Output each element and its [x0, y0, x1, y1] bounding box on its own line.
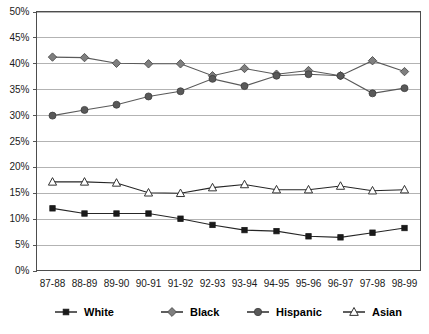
- legend-marker-hispanic: [254, 308, 261, 315]
- data-point-hispanic-98-99: [401, 85, 408, 92]
- data-point-asian-98-99: [400, 185, 408, 193]
- data-point-hispanic-89-90: [113, 101, 120, 108]
- legend-marker-black: [168, 308, 177, 317]
- data-point-black-93-94: [240, 64, 248, 72]
- x-axis-labels-group: 87-8888-8989-9090-9191-9292-9393-9494-95…: [40, 278, 418, 289]
- series-line-asian: [53, 182, 405, 193]
- x-axis-tick-label: 93-94: [232, 278, 258, 289]
- legend-label-black: Black: [190, 306, 220, 318]
- data-point-white-97-98: [370, 230, 375, 235]
- data-point-asian-93-94: [240, 180, 248, 188]
- y-axis-tick-label: 10%: [9, 213, 29, 224]
- data-point-hispanic-92-93: [209, 75, 216, 82]
- data-point-hispanic-95-96: [305, 71, 312, 78]
- x-axis-tick-label: 95-96: [296, 278, 322, 289]
- data-point-black-88-89: [80, 53, 88, 61]
- y-axis-tick-label: 20%: [9, 161, 29, 172]
- x-axis-tick-label: 91-92: [168, 278, 194, 289]
- legend-item-asian[interactable]: Asian: [343, 306, 402, 318]
- data-point-black-87-88: [48, 53, 56, 61]
- y-axis-tick-label: 0%: [15, 265, 30, 276]
- data-point-hispanic-97-98: [369, 90, 376, 97]
- data-point-hispanic-94-95: [273, 72, 280, 79]
- y-axis-tick-label: 5%: [15, 239, 30, 250]
- line-chart: 0%5%10%15%20%25%30%35%40%45%50% 87-8888-…: [0, 0, 429, 334]
- x-axis-tick-label: 97-98: [360, 278, 386, 289]
- data-point-white-90-91: [146, 211, 151, 216]
- x-axis-tick-label: 88-89: [72, 278, 98, 289]
- legend-item-black[interactable]: Black: [161, 306, 220, 318]
- legend-item-white[interactable]: White: [55, 306, 114, 318]
- data-point-hispanic-96-97: [337, 72, 344, 79]
- series-line-white: [53, 208, 405, 237]
- x-axis-tick-label: 98-99: [392, 278, 418, 289]
- series-white: [50, 206, 407, 240]
- y-axis-tick-label: 25%: [9, 136, 29, 147]
- x-axis-tick-label: 92-93: [200, 278, 226, 289]
- y-axis-labels-group: 0%5%10%15%20%25%30%35%40%45%50%: [9, 6, 29, 276]
- data-point-white-92-93: [210, 222, 215, 227]
- data-point-black-90-91: [144, 60, 152, 68]
- legend-marker-white: [63, 309, 69, 315]
- x-axis-tick-label: 87-88: [40, 278, 66, 289]
- y-axis-tick-label: 30%: [9, 110, 29, 121]
- legend-item-hispanic[interactable]: Hispanic: [247, 306, 322, 318]
- legend-label-hispanic: Hispanic: [276, 306, 322, 318]
- chart-container: 0%5%10%15%20%25%30%35%40%45%50% 87-8888-…: [0, 0, 429, 334]
- data-point-white-91-92: [178, 216, 183, 221]
- data-series-group: [48, 53, 408, 240]
- data-point-black-98-99: [400, 67, 408, 75]
- series-line-black: [53, 57, 405, 76]
- data-point-white-87-88: [50, 206, 55, 211]
- data-point-black-91-92: [176, 60, 184, 68]
- data-point-white-95-96: [306, 234, 311, 239]
- legend-label-white: White: [84, 306, 114, 318]
- y-axis-tick-label: 40%: [9, 58, 29, 69]
- data-point-white-94-95: [274, 228, 279, 233]
- legend-label-asian: Asian: [372, 306, 402, 318]
- data-point-white-89-90: [114, 211, 119, 216]
- series-hispanic: [49, 71, 408, 119]
- data-point-hispanic-88-89: [81, 106, 88, 113]
- data-point-black-89-90: [112, 59, 120, 67]
- data-point-white-96-97: [338, 235, 343, 240]
- data-point-hispanic-90-91: [145, 93, 152, 100]
- x-axis-tick-label: 90-91: [136, 278, 162, 289]
- y-axis-tick-label: 35%: [9, 84, 29, 95]
- data-point-white-93-94: [242, 227, 247, 232]
- series-line-hispanic: [53, 74, 405, 115]
- y-axis-tick-label: 15%: [9, 187, 29, 198]
- data-point-hispanic-87-88: [49, 112, 56, 119]
- gridlines-group: [37, 13, 421, 246]
- y-axis-tick-label: 45%: [9, 32, 29, 43]
- data-point-white-98-99: [402, 225, 407, 230]
- data-point-asian-96-97: [336, 182, 344, 190]
- x-axis-tick-label: 89-90: [104, 278, 130, 289]
- x-axis-tick-label: 94-95: [264, 278, 290, 289]
- data-point-white-88-89: [82, 211, 87, 216]
- x-axis-tick-label: 96-97: [328, 278, 354, 289]
- chart-legend: WhiteBlackHispanicAsian: [55, 306, 402, 318]
- series-black: [48, 53, 408, 80]
- data-point-hispanic-93-94: [241, 83, 248, 90]
- data-point-hispanic-91-92: [177, 88, 184, 95]
- y-axis-tick-label: 50%: [9, 6, 29, 17]
